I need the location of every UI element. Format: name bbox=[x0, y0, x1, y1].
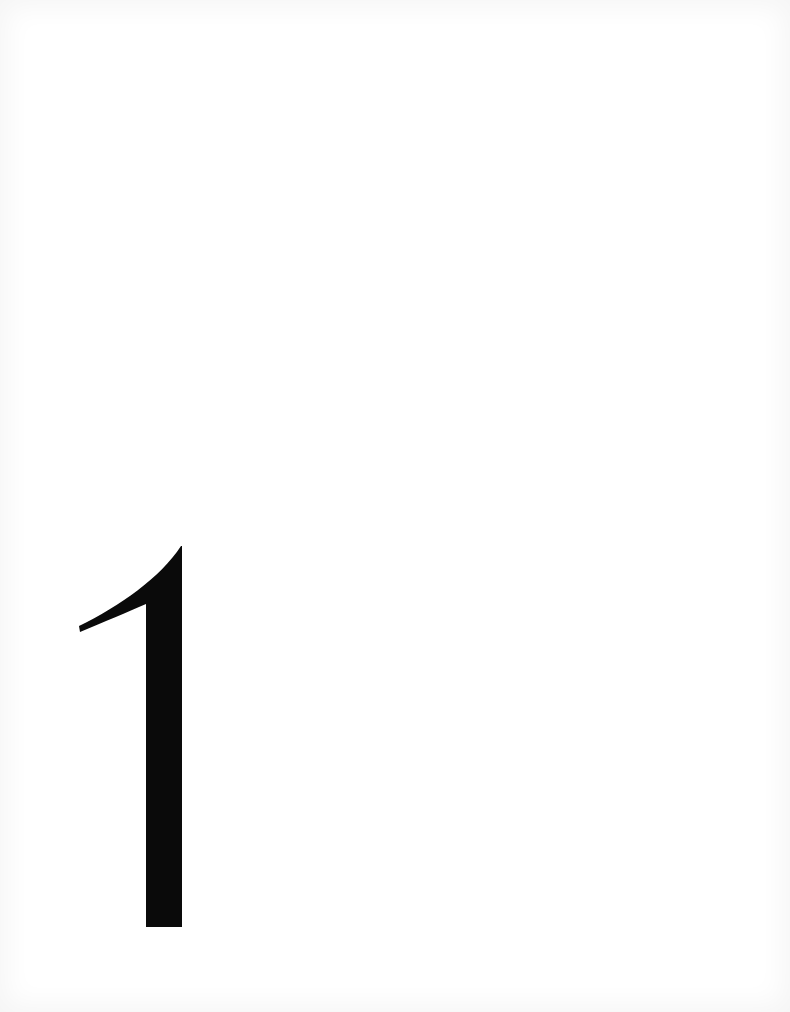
document-page: 1 bbox=[0, 0, 790, 1012]
chapter-numeral bbox=[0, 0, 790, 1012]
numeral-one-glyph bbox=[79, 546, 182, 927]
